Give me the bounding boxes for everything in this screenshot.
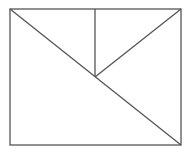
right-diagonal-line <box>95 9 181 77</box>
geometry-diagram <box>0 0 186 160</box>
